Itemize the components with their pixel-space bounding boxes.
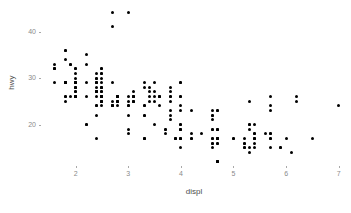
data-point xyxy=(295,100,298,103)
data-point xyxy=(248,151,251,154)
data-point xyxy=(53,63,56,66)
data-point xyxy=(153,95,156,98)
data-point xyxy=(127,104,130,107)
data-point xyxy=(211,114,214,117)
x-axis-title: displ xyxy=(44,187,344,196)
data-point xyxy=(127,114,130,117)
data-point xyxy=(164,132,167,135)
data-point xyxy=(95,114,98,117)
scatter-plot-figure: 203040 234567 displ hwy xyxy=(0,0,351,213)
x-tick-mark xyxy=(128,166,129,168)
data-point xyxy=(216,109,219,112)
data-point xyxy=(169,86,172,89)
data-point xyxy=(64,100,67,103)
data-point xyxy=(143,137,146,140)
data-point xyxy=(169,95,172,98)
data-point xyxy=(190,132,193,135)
data-point xyxy=(74,81,77,84)
y-tick-label: 30 xyxy=(0,74,36,82)
data-point xyxy=(290,151,293,154)
data-point xyxy=(100,81,103,84)
data-point xyxy=(169,114,172,117)
data-point xyxy=(179,137,182,140)
data-point xyxy=(143,81,146,84)
data-point xyxy=(64,81,67,84)
x-tick-label: 2 xyxy=(74,170,78,178)
data-point xyxy=(179,128,182,131)
data-point xyxy=(248,123,251,126)
data-point xyxy=(85,95,88,98)
data-point xyxy=(100,67,103,70)
data-point xyxy=(127,128,130,131)
data-point xyxy=(148,90,151,93)
data-point xyxy=(85,81,88,84)
data-point xyxy=(116,104,119,107)
data-point xyxy=(337,104,340,107)
data-point xyxy=(211,128,214,131)
data-point xyxy=(253,132,256,135)
data-point xyxy=(53,81,56,84)
data-point xyxy=(243,142,246,145)
data-point xyxy=(153,123,156,126)
data-point xyxy=(253,137,256,140)
data-point xyxy=(100,77,103,80)
data-point xyxy=(95,86,98,89)
data-point xyxy=(216,128,219,131)
data-point xyxy=(211,109,214,112)
data-point xyxy=(211,137,214,140)
data-point xyxy=(269,109,272,112)
data-point xyxy=(174,137,177,140)
data-point xyxy=(148,100,151,103)
data-point xyxy=(85,53,88,56)
data-point xyxy=(169,118,172,121)
data-point xyxy=(100,104,103,107)
data-point xyxy=(248,146,251,149)
data-point xyxy=(100,90,103,93)
data-point xyxy=(132,95,135,98)
data-point xyxy=(200,132,203,135)
data-point xyxy=(64,95,67,98)
y-tick-label: 40 xyxy=(0,28,36,36)
data-point xyxy=(216,142,219,145)
data-point xyxy=(132,90,135,93)
data-point xyxy=(216,160,219,163)
data-point xyxy=(295,95,298,98)
x-tick-label: 6 xyxy=(284,170,288,178)
data-point xyxy=(269,95,272,98)
data-point xyxy=(211,142,214,145)
data-point xyxy=(143,86,146,89)
data-point xyxy=(116,95,119,98)
data-point xyxy=(190,109,193,112)
x-tick-mark xyxy=(76,166,77,168)
data-point xyxy=(100,100,103,103)
y-tick-mark xyxy=(39,32,41,33)
data-point xyxy=(64,58,67,61)
data-point xyxy=(116,100,119,103)
data-point xyxy=(285,137,288,140)
data-point xyxy=(148,95,151,98)
data-point xyxy=(111,81,114,84)
y-tick-mark xyxy=(39,125,41,126)
data-point xyxy=(253,142,256,145)
data-point xyxy=(148,86,151,89)
data-point xyxy=(95,72,98,75)
data-point xyxy=(211,146,214,149)
data-point xyxy=(211,118,214,121)
data-point xyxy=(127,11,130,14)
data-point xyxy=(158,95,161,98)
plot-panel xyxy=(44,6,344,164)
data-point xyxy=(95,137,98,140)
x-tick-label: 7 xyxy=(337,170,341,178)
data-point xyxy=(100,72,103,75)
data-point xyxy=(85,63,88,66)
data-point xyxy=(179,81,182,84)
data-point xyxy=(243,137,246,140)
data-point xyxy=(132,100,135,103)
x-tick-mark xyxy=(233,166,234,168)
data-point xyxy=(248,100,251,103)
data-point xyxy=(143,104,146,107)
data-point xyxy=(85,123,88,126)
x-tick-label: 4 xyxy=(179,170,183,178)
data-point xyxy=(153,81,156,84)
data-point xyxy=(190,137,193,140)
